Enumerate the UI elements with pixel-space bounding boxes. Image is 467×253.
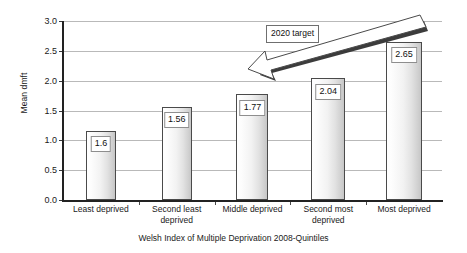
bar-value-label: 1.77 — [240, 100, 266, 116]
bar-slot: 1.77 — [215, 21, 291, 200]
y-axis-line — [62, 21, 64, 200]
bar-value-label: 1.56 — [164, 112, 190, 128]
bar-value-label: 1.6 — [91, 136, 112, 152]
y-axis-title: Mean dmft — [19, 33, 29, 153]
bar-value-label: 2.04 — [316, 84, 342, 100]
bar-slot: 2.04 — [290, 21, 366, 200]
x-axis-title: Welsh Index of Multiple Deprivation 2008… — [0, 233, 467, 243]
y-tick-label: 2.5 — [44, 46, 57, 56]
category-label-least-deprived: Least deprived — [63, 204, 139, 215]
bar-slot: 1.56 — [139, 21, 215, 200]
category-label-middle-deprived: Middle deprived — [215, 204, 291, 215]
bar-slot: 1.6 — [63, 21, 139, 200]
category-label-second-least-deprived: Second least deprived — [139, 204, 215, 226]
bar-value-label: 2.65 — [391, 47, 417, 63]
y-tick-label: 3.0 — [44, 16, 57, 26]
bar[interactable] — [386, 42, 422, 200]
y-tick-label: 1.5 — [44, 106, 57, 116]
category-label-second-most-deprived: Second most deprived — [290, 204, 366, 226]
x-axis-line — [62, 200, 443, 202]
y-tick-label: 0.5 — [44, 165, 57, 175]
y-tick-label: 2.0 — [44, 76, 57, 86]
target-annotation-label: 2020 target — [266, 25, 319, 43]
bar-slot: 2.65 — [366, 21, 442, 200]
category-label-most-deprived: Most deprived — [366, 204, 442, 215]
y-tick-label: 0.0 — [44, 195, 57, 205]
y-tick-label: 1.0 — [44, 135, 57, 145]
plot-area: 3.0 2.5 2.0 1.5 1.0 0.5 0.0 — [63, 21, 442, 200]
category-axis-labels: Least deprived Second least deprived Mid… — [63, 204, 442, 232]
bar-chart: Mean dmft 3.0 2.5 2.0 1.5 1.0 — [0, 0, 467, 253]
